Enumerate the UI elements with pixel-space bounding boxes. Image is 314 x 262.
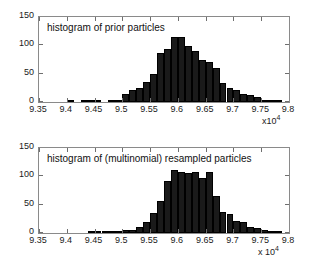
x-axis-tick-top: [122, 148, 123, 152]
x-exponent-power-bottom: 4: [275, 245, 279, 252]
y-tick-label: 50: [4, 198, 34, 208]
x-axis-tick: [95, 229, 96, 233]
histogram-bar: [213, 68, 220, 102]
y-tick-label: 100: [4, 38, 34, 48]
x-exponent-mantissa-bottom: x 10: [258, 247, 275, 257]
histogram-bar: [254, 97, 261, 102]
y-axis-tick: [39, 232, 43, 233]
x-exponent-mantissa-top: x10: [262, 116, 277, 126]
x-axis-tick-top: [67, 148, 68, 152]
histogram-bar: [143, 82, 150, 102]
histogram-bar: [108, 100, 115, 102]
histogram-bar: [95, 231, 102, 233]
histogram-bar: [227, 214, 234, 233]
histogram-bar: [171, 37, 178, 102]
x-axis-tick-top: [261, 148, 262, 152]
histogram-bar: [254, 228, 261, 233]
x-axis-tick: [261, 98, 262, 102]
y-tick-label: 100: [4, 169, 34, 179]
panel-resampled-particles: histogram of (multinomial) resampled par…: [0, 131, 314, 262]
x-axis-tick-top: [233, 148, 234, 152]
x-axis-tick-top: [178, 17, 179, 21]
x-axis-tick-top: [150, 148, 151, 152]
x-axis-tick-top: [95, 148, 96, 152]
histogram-bar: [108, 231, 115, 233]
figure-histogram-pair: histogram of prior particles 050100150 9…: [0, 0, 314, 262]
y-axis-tick-right: [285, 232, 289, 233]
y-axis-tick-right: [285, 44, 289, 45]
histogram-bar: [136, 227, 143, 233]
x-tick-label: 9.8: [268, 235, 308, 245]
x-axis-tick: [150, 98, 151, 102]
histogram-bar: [261, 100, 268, 102]
y-axis-tick-right: [285, 73, 289, 74]
histogram-bar: [275, 100, 282, 102]
x-exponent-bottom: x 104: [258, 245, 279, 257]
histogram-bar: [240, 94, 247, 102]
histogram-bar: [122, 94, 129, 102]
histogram-bar: [178, 37, 185, 102]
histogram-bar: [171, 170, 178, 233]
y-axis-tick: [39, 204, 43, 205]
histogram-bar: [150, 213, 157, 233]
histogram-bar: [129, 90, 136, 102]
histogram-bar: [157, 201, 164, 233]
histogram-bar: [220, 83, 227, 102]
histogram-bar: [67, 100, 74, 102]
histogram-bar: [199, 60, 206, 103]
histogram-bar: [157, 53, 164, 102]
y-axis-tick-right: [285, 175, 289, 176]
x-axis-tick: [122, 98, 123, 102]
y-axis-tick: [39, 175, 43, 176]
y-tick-label: 150: [4, 10, 34, 20]
histogram-bar: [199, 178, 206, 233]
histogram-bar: [240, 222, 247, 233]
histogram-bar: [261, 230, 268, 233]
x-axis-tick-top: [150, 17, 151, 21]
histogram-bar: [247, 227, 254, 233]
y-axis-tick: [39, 101, 43, 102]
x-axis-tick: [206, 98, 207, 102]
histogram-bar: [233, 221, 240, 233]
y-tick-label: 150: [4, 141, 34, 151]
histogram-bar: [185, 46, 192, 102]
histogram-bar: [88, 100, 95, 102]
x-axis-tick-top: [178, 148, 179, 152]
x-axis-tick: [233, 98, 234, 102]
x-axis-tick-top: [122, 17, 123, 21]
x-axis-tick: [233, 229, 234, 233]
x-axis-tick-top: [95, 17, 96, 21]
x-tick-label: 9.8: [268, 104, 308, 114]
x-axis-tick: [67, 229, 68, 233]
y-axis-tick-right: [285, 101, 289, 102]
x-exponent-top: x104: [262, 114, 280, 126]
histogram-bar: [136, 88, 143, 102]
histogram-bar: [233, 90, 240, 102]
histogram-bar: [143, 222, 150, 233]
histogram-bar: [164, 181, 171, 233]
x-exponent-power-top: 4: [277, 114, 281, 121]
plot-title-top: histogram of prior particles: [47, 22, 165, 33]
x-axis-tick-top: [39, 148, 40, 152]
x-axis-tick-top: [206, 17, 207, 21]
x-axis-tick: [67, 98, 68, 102]
histogram-bar: [115, 231, 122, 233]
plot-box-top: histogram of prior particles: [38, 16, 290, 103]
x-axis-tick: [206, 229, 207, 233]
x-axis-tick-top: [233, 17, 234, 21]
histogram-bar: [88, 231, 95, 233]
histogram-bar: [213, 196, 220, 233]
x-axis-tick-top: [206, 148, 207, 152]
plot-box-bottom: histogram of (multinomial) resampled par…: [38, 147, 290, 234]
histogram-bar: [185, 173, 192, 233]
plot-title-bottom: histogram of (multinomial) resampled par…: [47, 153, 252, 164]
histogram-bar: [129, 230, 136, 233]
histogram-bar: [164, 49, 171, 102]
y-tick-label: 50: [4, 67, 34, 77]
x-axis-tick: [122, 229, 123, 233]
histogram-bar: [275, 231, 282, 233]
x-axis-tick: [95, 98, 96, 102]
histogram-bar: [192, 172, 199, 233]
histogram-bar: [122, 230, 129, 233]
histogram-bar: [102, 231, 109, 233]
